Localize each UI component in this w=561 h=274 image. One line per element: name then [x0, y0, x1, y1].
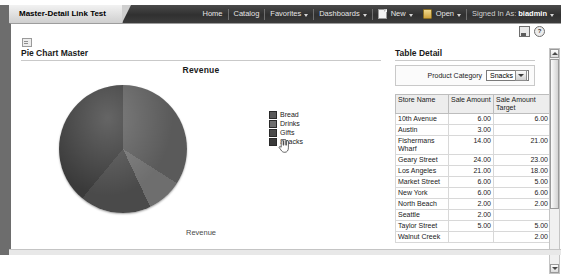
- product-category-select[interactable]: Snacks: [486, 70, 529, 81]
- chevron-down-icon: [552, 267, 558, 270]
- detail-section: Table Detail Product Category Snacks Sto…: [393, 48, 537, 244]
- vertical-scrollbar[interactable]: [549, 48, 560, 274]
- table-body: 10th Avenue6.006.00Austin3.00Fishermans …: [396, 114, 551, 243]
- legend-item-gifts[interactable]: Gifts: [269, 129, 303, 137]
- nav-item-label: New: [391, 5, 406, 23]
- horizontal-scrollbar[interactable]: [9, 249, 561, 255]
- collapse-grip-icon[interactable]: [22, 38, 32, 47]
- cell-store-name: North Beach: [396, 199, 449, 210]
- legend-swatch-icon: [269, 111, 277, 119]
- cell-sale-amount: 24.00: [449, 155, 494, 166]
- cell-store-name: Fishermans Wharf: [396, 136, 449, 155]
- table-row[interactable]: New York6.006.00: [396, 188, 551, 199]
- legend-swatch-icon: [269, 129, 277, 137]
- column-header-sale-amount-target[interactable]: Sale Amount Target: [494, 95, 551, 114]
- chevron-up-icon: [552, 52, 558, 55]
- chevron-down-icon: [363, 14, 367, 17]
- legend-item-snacks[interactable]: Snacks: [269, 138, 303, 146]
- product-category-label: Product Category: [428, 72, 482, 79]
- cell-sale-amount: 2.00: [449, 210, 494, 221]
- master-section-title: Pie Chart Master: [19, 48, 383, 60]
- table-row[interactable]: Taylor Street5.005.00: [396, 221, 551, 232]
- table-header-row: Store Name Sale Amount Sale Amount Targe…: [396, 95, 551, 114]
- chevron-down-icon: [550, 14, 554, 17]
- nav-item-dashboards[interactable]: Dashboards: [314, 5, 371, 23]
- legend-item-bread[interactable]: Bread: [269, 111, 303, 119]
- cell-sale-amount: 2.00: [449, 199, 494, 210]
- cell-sale-amount: 5.00: [449, 221, 494, 232]
- legend-swatch-icon: [269, 120, 277, 128]
- master-section: Pie Chart Master Revenue Bread: [19, 48, 383, 244]
- cell-sale-amount: 3.00: [449, 125, 494, 136]
- nav-item-home[interactable]: Home: [197, 5, 227, 23]
- cell-sale-amount: 6.00: [449, 114, 494, 125]
- table-row[interactable]: Seattle2.00: [396, 210, 551, 221]
- table-row[interactable]: Geary Street24.0023.00: [396, 155, 551, 166]
- pie-chart[interactable]: [59, 85, 187, 213]
- cell-store-name: Walnut Creek: [396, 232, 449, 243]
- cell-sale-amount-target: 6.00: [494, 188, 551, 199]
- nav-item-favorites[interactable]: Favorites: [265, 5, 313, 23]
- cell-sale-amount-target: 5.00: [494, 221, 551, 232]
- pie-slices[interactable]: [59, 85, 187, 213]
- cell-sale-amount-target: 2.00: [494, 232, 551, 243]
- table-row[interactable]: Fishermans Wharf14.0021.00: [396, 136, 551, 155]
- table-head: Store Name Sale Amount Sale Amount Targe…: [396, 95, 551, 114]
- table-row[interactable]: Market Street6.005.00: [396, 177, 551, 188]
- help-icon[interactable]: ?: [534, 26, 545, 37]
- cell-sale-amount: 21.00: [449, 166, 494, 177]
- cell-sale-amount: 6.00: [449, 177, 494, 188]
- scroll-down-button[interactable]: [550, 264, 559, 273]
- cell-sale-amount-target: 2.00: [494, 199, 551, 210]
- signed-in-label: Signed In As:: [472, 5, 516, 23]
- nav-item-new[interactable]: New: [373, 5, 418, 23]
- table-row[interactable]: Austin3.00: [396, 125, 551, 136]
- chevron-down-icon: [409, 14, 413, 17]
- cell-sale-amount: 14.00: [449, 136, 494, 155]
- column-header-sale-amount[interactable]: Sale Amount: [449, 95, 494, 114]
- nav-item-catalog[interactable]: Catalog: [229, 5, 265, 23]
- table-row[interactable]: 10th Avenue6.006.00: [396, 114, 551, 125]
- legend-label: Gifts: [280, 129, 294, 137]
- global-navigation: Home Catalog Favorites Dashboards New: [197, 5, 559, 23]
- cell-store-name: Seattle: [396, 210, 449, 221]
- print-icon[interactable]: [519, 26, 530, 37]
- open-folder-icon: [423, 9, 432, 19]
- app-header: Master-Detail Link Test Home Catalog Fav…: [9, 5, 561, 23]
- cell-store-name: Market Street: [396, 177, 449, 188]
- cell-store-name: Los Angeles: [396, 166, 449, 177]
- table-row[interactable]: North Beach2.002.00: [396, 199, 551, 210]
- chevron-down-icon[interactable]: [515, 70, 527, 81]
- signed-in-user: biadmin: [518, 5, 547, 23]
- nav-item-open[interactable]: Open: [418, 5, 466, 23]
- legend-label: Bread: [280, 111, 299, 119]
- legend-item-drinks[interactable]: Drinks: [269, 120, 303, 128]
- nav-item-label: Open: [436, 5, 454, 23]
- cell-sale-amount-target: 18.00: [494, 166, 551, 177]
- vertical-scrollbar-thumb[interactable]: [550, 59, 559, 209]
- column-header-store-name[interactable]: Store Name: [396, 95, 449, 114]
- chevron-down-icon: [304, 14, 308, 17]
- cell-sale-amount-target: 6.00: [494, 114, 551, 125]
- scroll-up-button[interactable]: [550, 49, 559, 58]
- cell-sale-amount: [449, 232, 494, 243]
- legend-label: Snacks: [280, 138, 303, 146]
- chart-title: Revenue: [19, 63, 383, 75]
- table-row[interactable]: Los Angeles21.0018.00: [396, 166, 551, 177]
- panel-toolbar: ?: [519, 26, 545, 37]
- table-row[interactable]: Walnut Creek2.00: [396, 232, 551, 243]
- cell-sale-amount-target: [494, 210, 551, 221]
- pie-chart-container: Revenue Bread Drinks: [19, 63, 383, 239]
- detail-table: Store Name Sale Amount Sale Amount Targe…: [395, 94, 551, 243]
- cell-store-name: New York: [396, 188, 449, 199]
- cell-sale-amount-target: 5.00: [494, 177, 551, 188]
- window-left-edge: [0, 5, 9, 255]
- signed-in-as-menu[interactable]: Signed In As: biadmin: [467, 5, 559, 23]
- section-divider: [395, 60, 535, 61]
- document-tab[interactable]: Master-Detail Link Test: [9, 5, 123, 23]
- cell-store-name: Geary Street: [396, 155, 449, 166]
- dashboard-content: Pie Chart Master Revenue Bread: [19, 38, 537, 246]
- prompt-bar: Product Category Snacks: [395, 65, 535, 86]
- cell-sale-amount-target: 21.00: [494, 136, 551, 155]
